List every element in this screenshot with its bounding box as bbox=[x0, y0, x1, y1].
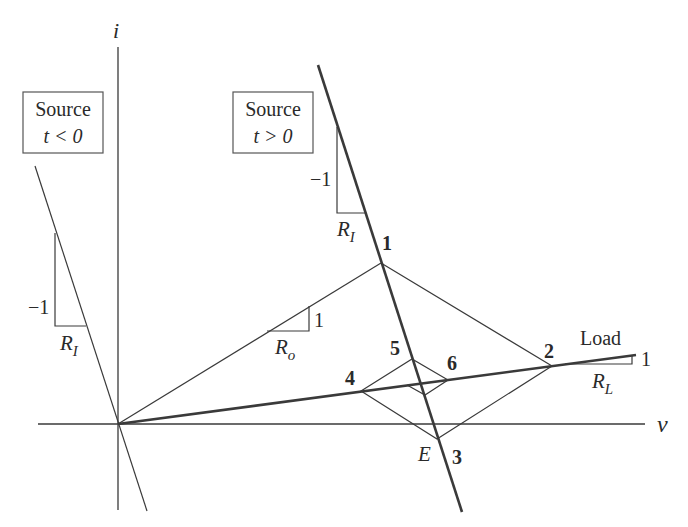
ro-slope-triangle bbox=[267, 306, 309, 331]
source-pos-slope-rise: −1 bbox=[310, 168, 331, 190]
source-pos-slope-run: RI bbox=[336, 217, 356, 245]
point-label-2: 2 bbox=[544, 340, 554, 362]
source-box-t-neg: Source t < 0 bbox=[23, 92, 103, 153]
equilibrium-label: E bbox=[417, 442, 431, 466]
svg-text:Ro: Ro bbox=[274, 335, 296, 363]
point-label-5: 5 bbox=[390, 337, 400, 359]
svg-text:RI: RI bbox=[336, 217, 356, 245]
load-label: Load bbox=[580, 327, 621, 349]
point-label-4: 4 bbox=[345, 367, 355, 389]
ro-slope-rise: 1 bbox=[314, 309, 324, 331]
load-line-diagram: i v −1 RI Source t < 0 −1 RI Source t > … bbox=[0, 0, 688, 527]
load-slope-rise: 1 bbox=[641, 348, 651, 370]
load-slope-run: RL bbox=[591, 369, 613, 397]
source-neg-title: Source bbox=[35, 98, 91, 120]
load-line bbox=[118, 355, 636, 424]
svg-text:RL: RL bbox=[591, 369, 613, 397]
point-label-3: 3 bbox=[452, 446, 462, 468]
v-axis-label: v bbox=[657, 411, 668, 437]
source-neg-slope-rise: −1 bbox=[28, 296, 49, 318]
point-label-6: 6 bbox=[447, 352, 457, 374]
source-pos-title: Source bbox=[245, 98, 301, 120]
source-pos-condition: t > 0 bbox=[253, 125, 292, 147]
ro-line bbox=[118, 263, 381, 424]
source-neg-slope-run: RI bbox=[59, 331, 79, 359]
source-neg-slope-triangle bbox=[55, 233, 86, 326]
source-line-t-neg bbox=[35, 166, 147, 511]
source-neg-condition: t < 0 bbox=[43, 125, 82, 147]
point-label-1: 1 bbox=[382, 232, 392, 254]
i-axis-label: i bbox=[113, 18, 119, 43]
svg-text:RI: RI bbox=[59, 331, 79, 359]
ro-slope-run: Ro bbox=[274, 335, 296, 363]
source-box-t-pos: Source t > 0 bbox=[233, 92, 313, 153]
